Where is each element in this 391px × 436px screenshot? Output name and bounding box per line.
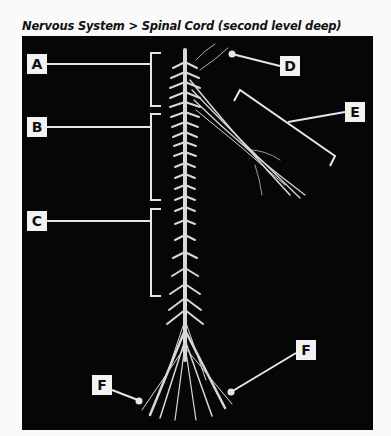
label-d[interactable]: D: [280, 56, 300, 76]
spinal-cord-illustration: [0, 0, 391, 436]
label-a[interactable]: A: [27, 54, 47, 74]
label-b[interactable]: B: [27, 117, 47, 137]
label-f-left[interactable]: F: [92, 375, 112, 395]
spinal-cord: [142, 44, 305, 420]
label-f-right[interactable]: F: [296, 340, 316, 360]
label-e[interactable]: E: [345, 102, 365, 122]
label-c[interactable]: C: [27, 211, 47, 231]
